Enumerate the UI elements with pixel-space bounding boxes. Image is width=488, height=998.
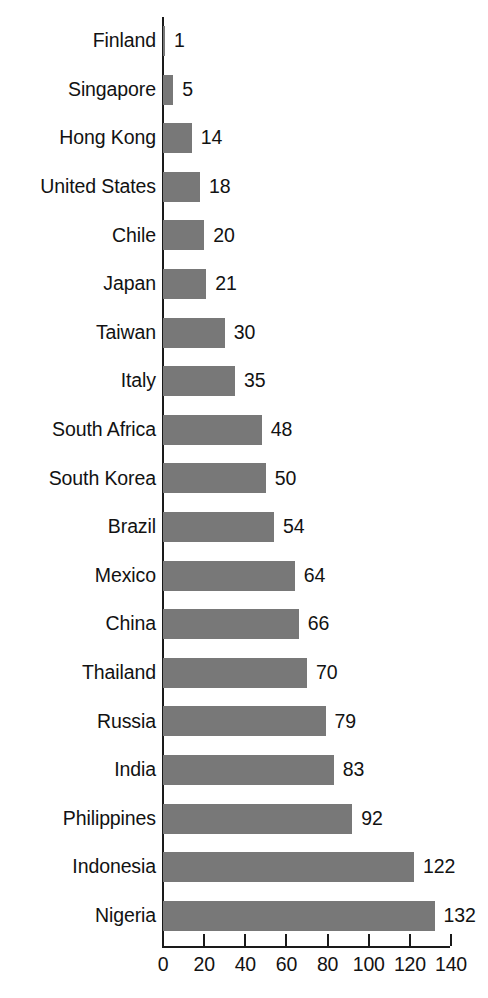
value-axis-tick xyxy=(327,934,329,946)
bar-row: Brazil54 xyxy=(0,503,488,551)
value-axis-tick xyxy=(409,934,411,946)
bar-row: Finland1 xyxy=(0,17,488,65)
bar-and-value: 54 xyxy=(163,512,305,542)
bar-value-label: 14 xyxy=(201,128,223,148)
value-axis-tick-label: 120 xyxy=(394,955,426,975)
category-label: China xyxy=(0,614,156,634)
bar-and-value: 70 xyxy=(163,658,338,688)
category-label: Brazil xyxy=(0,517,156,537)
bar-value-label: 1 xyxy=(174,31,185,51)
category-label: South Korea xyxy=(0,469,156,489)
bar-value-label: 21 xyxy=(215,274,237,294)
bar-and-value: 66 xyxy=(163,609,329,639)
plot-area: Finland1Singapore5Hong Kong14United Stat… xyxy=(0,0,488,998)
category-label: Italy xyxy=(0,371,156,391)
value-axis-tick-label: 80 xyxy=(317,955,338,975)
bar xyxy=(163,901,435,931)
bar xyxy=(163,852,414,882)
bar-row: South Korea50 xyxy=(0,454,488,502)
bar-value-label: 70 xyxy=(316,663,338,683)
bar-value-label: 20 xyxy=(213,226,235,246)
bar-and-value: 92 xyxy=(163,804,383,834)
bar-row: Nigeria132 xyxy=(0,892,488,940)
bar-and-value: 50 xyxy=(163,463,296,493)
value-axis-tick xyxy=(162,934,164,946)
bar-row: Singapore5 xyxy=(0,66,488,114)
bar-and-value: 83 xyxy=(163,755,364,785)
bar xyxy=(163,561,295,591)
bar-row: China66 xyxy=(0,600,488,648)
bar-row: Thailand70 xyxy=(0,649,488,697)
bar-value-label: 50 xyxy=(275,469,297,489)
bar xyxy=(163,318,225,348)
bar-chart: Finland1Singapore5Hong Kong14United Stat… xyxy=(0,0,488,998)
bar-and-value: 122 xyxy=(163,852,455,882)
bar-and-value: 1 xyxy=(163,26,185,56)
value-axis-tick xyxy=(244,934,246,946)
bar-row: Chile20 xyxy=(0,211,488,259)
bar-row: Taiwan30 xyxy=(0,309,488,357)
bar-value-label: 122 xyxy=(423,857,455,877)
bar-and-value: 18 xyxy=(163,172,231,202)
value-axis-tick-label: 20 xyxy=(193,955,214,975)
category-label: Russia xyxy=(0,712,156,732)
bar-and-value: 64 xyxy=(163,561,325,591)
bar xyxy=(163,415,262,445)
bar xyxy=(163,172,200,202)
bar xyxy=(163,755,334,785)
category-label: Mexico xyxy=(0,566,156,586)
bar xyxy=(163,512,274,542)
bar-row: Japan21 xyxy=(0,260,488,308)
bar-and-value: 48 xyxy=(163,415,292,445)
category-label: Finland xyxy=(0,31,156,51)
bar-row: Italy35 xyxy=(0,357,488,405)
bar-value-label: 48 xyxy=(271,420,293,440)
bar-row: United States18 xyxy=(0,163,488,211)
bar-value-label: 30 xyxy=(234,323,256,343)
bar-and-value: 35 xyxy=(163,366,266,396)
value-axis-tick-label: 40 xyxy=(235,955,256,975)
bar xyxy=(163,609,299,639)
category-label: Taiwan xyxy=(0,323,156,343)
bar-row: Indonesia122 xyxy=(0,843,488,891)
bar xyxy=(163,123,192,153)
value-axis-tick xyxy=(368,934,370,946)
bar-and-value: 79 xyxy=(163,706,356,736)
bar-value-label: 132 xyxy=(444,906,476,926)
bar-row: Russia79 xyxy=(0,697,488,745)
value-axis-tick xyxy=(450,934,452,946)
bar-row: Philippines92 xyxy=(0,795,488,843)
bar xyxy=(163,269,206,299)
category-label: United States xyxy=(0,177,156,197)
bar-row: India83 xyxy=(0,746,488,794)
value-axis-tick xyxy=(203,934,205,946)
bar-and-value: 5 xyxy=(163,75,193,105)
bar xyxy=(163,26,165,56)
value-axis-tick-label: 60 xyxy=(276,955,297,975)
bar-value-label: 83 xyxy=(343,760,365,780)
category-label: South Africa xyxy=(0,420,156,440)
value-axis-tick-label: 100 xyxy=(353,955,385,975)
bar xyxy=(163,658,307,688)
bar xyxy=(163,804,352,834)
bar xyxy=(163,75,173,105)
value-axis-tick-label: 0 xyxy=(158,955,169,975)
category-label: Nigeria xyxy=(0,906,156,926)
bar-value-label: 35 xyxy=(244,371,266,391)
bar-value-label: 79 xyxy=(335,712,357,732)
bar-and-value: 21 xyxy=(163,269,237,299)
category-label: Hong Kong xyxy=(0,128,156,148)
bar xyxy=(163,220,204,250)
bar-value-label: 54 xyxy=(283,517,305,537)
category-label: Singapore xyxy=(0,80,156,100)
bar-value-label: 18 xyxy=(209,177,231,197)
category-label: India xyxy=(0,760,156,780)
category-label: Japan xyxy=(0,274,156,294)
bar-value-label: 66 xyxy=(308,614,330,634)
category-label: Indonesia xyxy=(0,857,156,877)
bar xyxy=(163,366,235,396)
bar-row: Mexico64 xyxy=(0,552,488,600)
value-axis-tick-label: 140 xyxy=(435,955,467,975)
bar-and-value: 30 xyxy=(163,318,255,348)
category-label: Chile xyxy=(0,226,156,246)
